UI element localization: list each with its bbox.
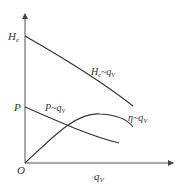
p-qv-curve (25, 107, 119, 143)
he-qv-curve (25, 36, 133, 106)
pump-characteristic-chart: He P O qV He~qV P~qV η~qV (0, 0, 183, 193)
he-curve-label: He~qV (90, 66, 116, 78)
eta-curve-label: η~qV (128, 112, 148, 124)
p-axis-label: P (13, 101, 21, 113)
x-axis-label: qV (94, 170, 105, 184)
he-axis-label: He (7, 30, 19, 44)
origin-label: O (17, 164, 25, 176)
eta-qv-curve (25, 114, 133, 163)
p-curve-label: P~qV (44, 102, 67, 114)
